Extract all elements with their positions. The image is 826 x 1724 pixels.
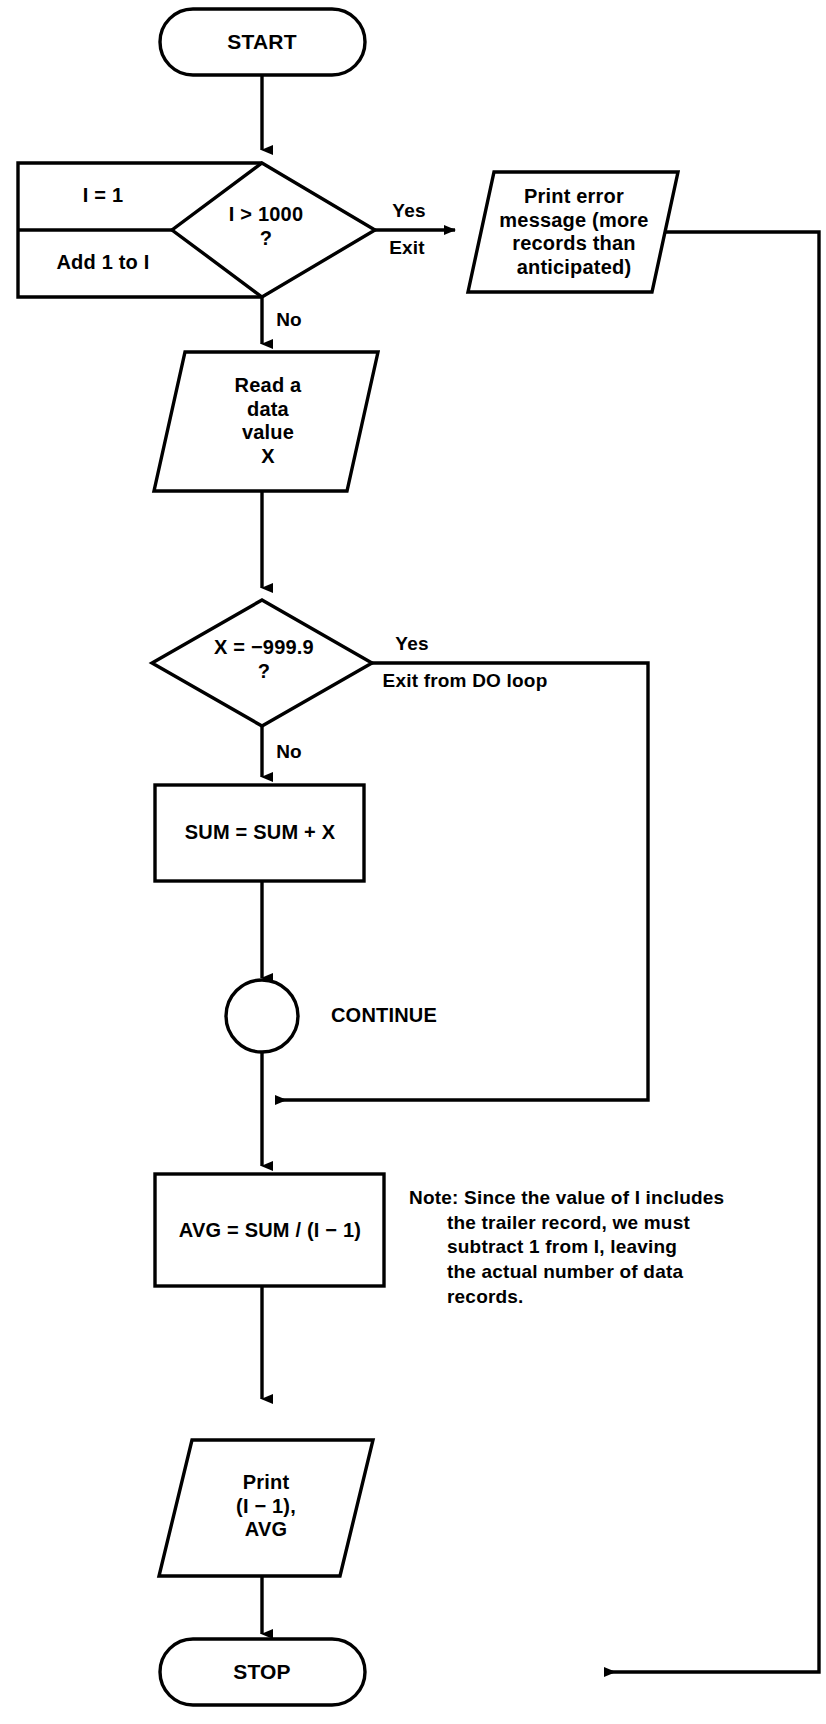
note-line-3: subtract 1 from I, leaving — [409, 1235, 809, 1260]
node-label-loop-test: I > 1000 ? — [229, 203, 303, 250]
edge-error-to-stop — [605, 232, 819, 1672]
node-label-print-error: Print error message (more records than a… — [499, 185, 648, 279]
node-label-continue: CONTINUE — [331, 1004, 437, 1028]
edge-label-loop-exit: Exit — [389, 237, 425, 259]
edge-label-loop-yes: Yes — [392, 200, 425, 222]
node-label-start: START — [227, 30, 296, 55]
node-label-trailer-test: X = −999.9 ? — [214, 636, 314, 683]
shape-continue — [226, 980, 298, 1052]
edge-label-trailer-no: No — [276, 741, 302, 763]
node-label-accumulate: SUM = SUM + X — [185, 821, 335, 845]
edge-label-trailer-yes: Yes — [395, 633, 428, 655]
note-line-4: the actual number of data — [409, 1260, 809, 1285]
node-label-stop: STOP — [233, 1660, 291, 1685]
note-block: Note: Since the value of I includes the … — [409, 1186, 809, 1309]
flowchart-canvas: START I = 1 Add 1 to I I > 1000 ? Yes Ex… — [0, 0, 826, 1724]
node-label-init: I = 1 — [83, 184, 123, 208]
note-line-1: Note: Since the value of I includes — [409, 1186, 809, 1211]
node-label-read-data: Read a data value X — [235, 374, 302, 468]
node-label-average: AVG = SUM / (I − 1) — [179, 1219, 361, 1243]
edge-label-loop-no: No — [276, 309, 302, 331]
node-label-increment: Add 1 to I — [56, 251, 149, 275]
edge-label-trailer-exit: Exit from DO loop — [383, 670, 548, 692]
node-label-print-results: Print (I − 1), AVG — [236, 1471, 296, 1542]
note-line-2: the trailer record, we must — [409, 1211, 809, 1236]
note-line-5: records. — [409, 1285, 809, 1310]
